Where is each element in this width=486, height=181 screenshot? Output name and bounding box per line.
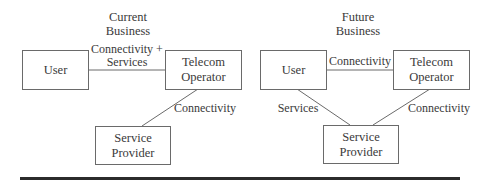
current-user-node: User — [22, 50, 89, 90]
future-service-provider-node: Service Provider — [323, 125, 399, 164]
current-edge-label-telecom-provider: Connectivity — [174, 102, 236, 115]
bottom-rule-divider — [20, 177, 460, 180]
future-user-node: User — [260, 50, 327, 90]
future-provider-label-line2: Provider — [339, 145, 382, 160]
business-model-comparison-figure: Current Business User Telecom Operator S… — [0, 0, 486, 181]
current-edge-label-user-telecom-line2: Services — [107, 56, 148, 69]
future-user-label: User — [282, 63, 306, 78]
current-telecom-label-line1: Telecom — [182, 55, 225, 70]
current-business-title-line1: Current — [109, 10, 147, 24]
future-edge-label-telecom-provider: Connectivity — [408, 102, 470, 115]
current-telecom-label-line2: Operator — [181, 70, 225, 85]
current-business-title-line2: Business — [106, 24, 150, 38]
current-provider-label-line1: Service — [114, 131, 151, 146]
future-edge-label-user-provider: Services — [278, 102, 319, 115]
current-provider-label-line2: Provider — [111, 146, 154, 161]
current-service-provider-node: Service Provider — [95, 126, 171, 165]
connector-lines — [0, 0, 486, 181]
future-business-title-line2: Business — [336, 24, 380, 38]
future-provider-label-line1: Service — [342, 130, 379, 145]
future-business-title-line1: Future — [342, 10, 375, 24]
current-telecom-operator-node: Telecom Operator — [165, 50, 242, 90]
future-telecom-label-line1: Telecom — [410, 55, 453, 70]
future-telecom-operator-node: Telecom Operator — [393, 50, 470, 90]
future-telecom-label-line2: Operator — [409, 70, 453, 85]
current-user-label: User — [44, 63, 68, 78]
future-edge-label-user-telecom: Connectivity — [329, 55, 391, 68]
